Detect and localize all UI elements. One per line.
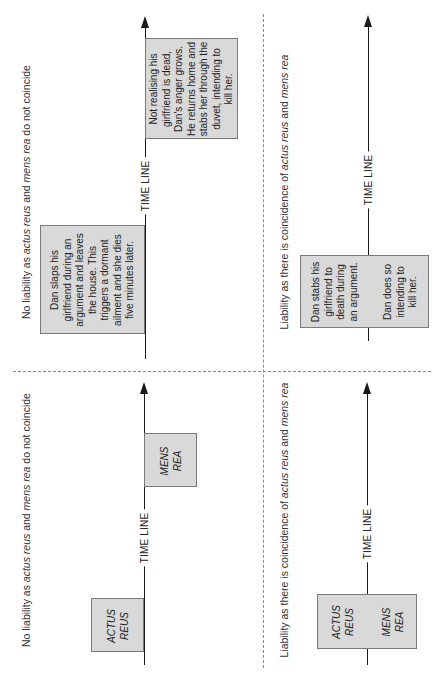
timeline-label: TIME LINE bbox=[362, 506, 373, 563]
intent-text: Dan does so intending to kill her. bbox=[382, 264, 420, 320]
timeline-label: TIME LINE bbox=[139, 510, 150, 567]
event-text-slap: Dan slaps his girlfriend during an argum… bbox=[49, 233, 137, 326]
caption-top-left: No liability as actus reus and mens rea … bbox=[20, 65, 32, 319]
coincidence-box: Dan stabs his girlfriend to death during… bbox=[300, 255, 429, 328]
actus-reus-box: ACTUS REUS bbox=[91, 598, 144, 652]
actus-reus-text: ACTUS REUS bbox=[331, 605, 356, 639]
actus-reus-text: ACTUS REUS bbox=[106, 609, 131, 643]
caption-bottom-left: No liability as actus reus and mens rea … bbox=[20, 393, 32, 647]
mens-rea-text: MENS REA bbox=[381, 608, 406, 637]
event-text-stab: Not realising his girlfriend is dead, Da… bbox=[148, 42, 236, 137]
caption-top-right: Liability as there is coincidence of act… bbox=[278, 55, 290, 330]
event-box-slap: Dan slaps his girlfriend during an argum… bbox=[40, 225, 145, 334]
horizontal-divider bbox=[13, 371, 431, 372]
coincidence-box: ACTUS REUS MENS REA bbox=[317, 594, 417, 649]
mens-rea-text: MENS REA bbox=[159, 447, 184, 476]
mens-rea-box: MENS REA bbox=[144, 433, 197, 487]
act-text: Dan stabs his girlfriend to death during… bbox=[310, 262, 360, 323]
vertical-divider bbox=[263, 14, 264, 668]
timeline-label: TIME LINE bbox=[363, 152, 374, 209]
caption-bottom-right: Liability as there is coincidence of act… bbox=[278, 383, 290, 658]
event-box-stab: Not realising his girlfriend is dead, Da… bbox=[145, 38, 238, 139]
timeline-label: TIME LINE bbox=[140, 158, 151, 215]
